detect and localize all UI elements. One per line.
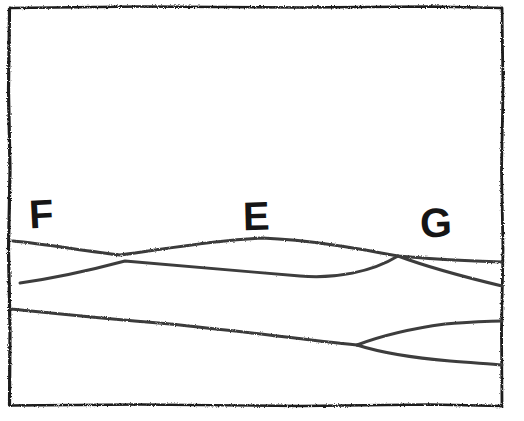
label-f: F [28,193,54,234]
frame-top-edge [10,7,501,9]
label-g: G [419,202,452,244]
sketch-figure: F E G [0,0,524,421]
frame-left-edge [9,8,11,405]
frame-right-edge [502,8,504,406]
label-e: E [242,196,270,237]
